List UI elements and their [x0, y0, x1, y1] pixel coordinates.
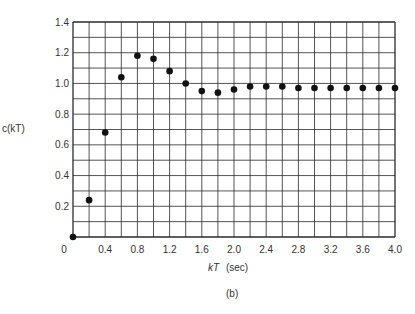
data-point — [102, 129, 109, 136]
x-tick-label: 0.8 — [130, 244, 144, 255]
y-axis-label: c(kT) — [2, 123, 25, 134]
data-point — [182, 80, 189, 87]
data-point — [392, 85, 399, 92]
chart: 00.40.81.21.62.02.42.83.23.64.0 0.20.40.… — [0, 0, 415, 314]
y-tick-label: 0.2 — [55, 201, 69, 212]
data-point — [134, 52, 141, 59]
x-tick-label: 4.0 — [388, 244, 402, 255]
y-tick-label: 0.8 — [55, 109, 69, 120]
data-point — [215, 89, 222, 96]
data-point — [150, 56, 157, 63]
x-axis-label-var: kT — [208, 262, 220, 273]
data-point — [70, 234, 77, 241]
x-tick-label: 0 — [61, 244, 67, 255]
data-point — [311, 85, 318, 92]
data-point — [343, 85, 350, 92]
data-point — [279, 83, 286, 90]
data-point — [86, 197, 93, 204]
y-axis-tick-labels: 0.20.40.60.81.01.21.4 — [55, 17, 69, 212]
data-point — [360, 85, 367, 92]
x-tick-label: 3.2 — [324, 244, 338, 255]
x-tick-label: 3.6 — [356, 244, 370, 255]
x-tick-label: 0.4 — [98, 244, 112, 255]
data-point — [327, 85, 334, 92]
data-point — [166, 68, 173, 75]
x-tick-label: 2.4 — [259, 244, 273, 255]
x-tick-label: 1.6 — [195, 244, 209, 255]
x-tick-label: 2.0 — [227, 244, 241, 255]
chart-grid — [73, 22, 395, 237]
data-point — [199, 88, 206, 95]
x-tick-label: 2.8 — [291, 244, 305, 255]
data-point — [376, 85, 383, 92]
x-axis-label: kT (sec) — [208, 262, 248, 273]
figure-caption: (b) — [226, 288, 238, 299]
data-point — [263, 83, 270, 90]
data-point — [231, 86, 238, 93]
data-point — [118, 74, 125, 81]
x-tick-label: 1.2 — [163, 244, 177, 255]
y-tick-label: 0.6 — [55, 139, 69, 150]
y-tick-label: 1.4 — [55, 17, 69, 28]
y-tick-label: 0.4 — [55, 170, 69, 181]
y-tick-label: 1.2 — [55, 47, 69, 58]
x-axis-tick-labels: 00.40.81.21.62.02.42.83.23.64.0 — [61, 244, 402, 255]
data-point — [295, 85, 302, 92]
data-point — [247, 83, 254, 90]
y-tick-label: 1.0 — [55, 78, 69, 89]
x-axis-label-unit: (sec) — [226, 262, 248, 273]
